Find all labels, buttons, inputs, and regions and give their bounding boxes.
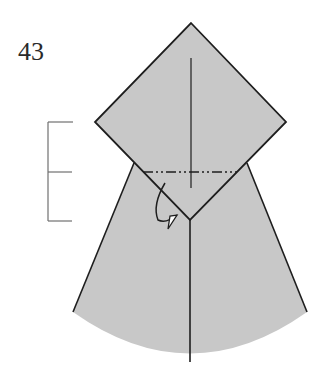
origami-diagram: [0, 0, 328, 388]
thirds-bracket: [48, 122, 73, 221]
